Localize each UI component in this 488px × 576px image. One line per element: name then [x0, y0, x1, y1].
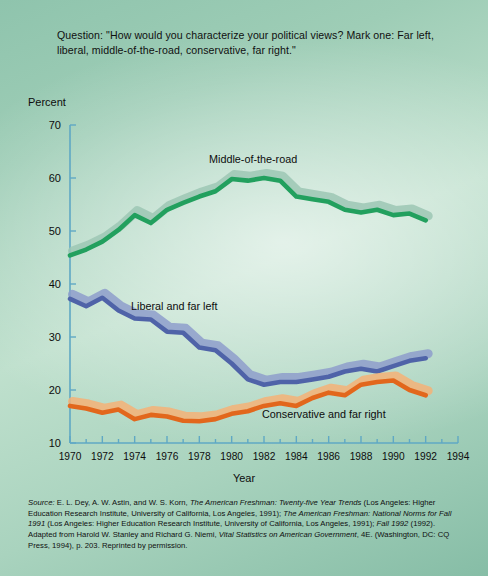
x-tick-label: 1976	[156, 451, 179, 462]
series-label-conservative-and-far-right: Conservative and far right	[262, 408, 386, 420]
x-tick-label: 1980	[220, 451, 243, 462]
series-label-liberal-and-far-left: Liberal and far left	[131, 300, 217, 312]
y-tick-label: 20	[49, 384, 61, 396]
y-tick-label: 30	[49, 331, 61, 343]
x-tick-label: 1994	[447, 451, 470, 462]
y-tick-label: 70	[49, 119, 61, 131]
x-tick-label: 1992	[414, 451, 437, 462]
figure-panel: Question: "How would you characterize yo…	[0, 0, 488, 576]
y-tick-label: 40	[49, 278, 61, 290]
chart-plot-area: 1020304050607019701972197419761978198019…	[0, 0, 488, 576]
source-italic-1: The American Freshman: Twenty-five Year …	[190, 498, 362, 507]
series-label-middle-of-the-road: Middle-of-the-road	[209, 153, 297, 165]
series-shadow	[73, 293, 429, 380]
series-line	[70, 178, 426, 255]
source-italic-4: Vital Statistics on American Government	[219, 530, 357, 539]
line-chart-svg: 1020304050607019701972197419761978198019…	[0, 0, 488, 576]
x-tick-label: 1984	[285, 451, 308, 462]
source-italic-3: Fall 1992	[377, 519, 409, 528]
y-tick-label: 60	[49, 172, 61, 184]
source-note: Source: E. L. Dey, A. W. Astin, and W. S…	[28, 498, 462, 552]
source-text-3: (Los Angeles: Higher Education Research …	[45, 519, 376, 528]
x-tick-label: 1990	[382, 451, 405, 462]
y-tick-label: 50	[49, 225, 61, 237]
data-series-group	[70, 174, 428, 422]
x-tick-label: 1982	[253, 451, 276, 462]
source-label: Source:	[28, 498, 55, 507]
x-tick-label: 1978	[188, 451, 211, 462]
x-tick-label: 1970	[59, 451, 82, 462]
y-tick-label: 10	[49, 437, 61, 449]
x-axis-title: Year	[0, 472, 488, 484]
x-tick-label: 1986	[317, 451, 340, 462]
x-tick-label: 1974	[123, 451, 146, 462]
source-text-1: E. L. Dey, A. W. Astin, and W. S. Korn,	[55, 498, 190, 507]
x-tick-label: 1988	[350, 451, 373, 462]
x-tick-label: 1972	[91, 451, 114, 462]
